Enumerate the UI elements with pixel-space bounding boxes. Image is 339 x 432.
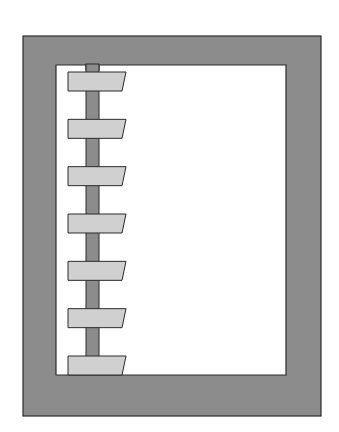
binder-illustration bbox=[0, 0, 339, 432]
binder-tab bbox=[68, 309, 126, 328]
binder-tab bbox=[68, 261, 126, 280]
binder-tab bbox=[68, 214, 126, 233]
binder-tab bbox=[68, 356, 126, 375]
binder-tab bbox=[68, 119, 126, 138]
binder-tab bbox=[68, 167, 126, 186]
binder-tab bbox=[68, 72, 126, 91]
